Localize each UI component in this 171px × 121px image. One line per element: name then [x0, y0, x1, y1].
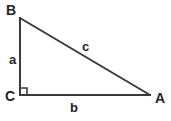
triangle-graphic	[0, 0, 171, 121]
vertex-label-b: B	[6, 3, 16, 17]
side-label-a: a	[9, 53, 16, 66]
side-c-line	[20, 18, 150, 95]
triangle-diagram: B C A a b c	[0, 0, 171, 121]
side-label-b: b	[70, 101, 78, 114]
right-angle-marker-icon	[20, 88, 27, 95]
side-label-c: c	[82, 40, 89, 53]
vertex-label-c: C	[5, 89, 15, 103]
vertex-label-a: A	[155, 91, 165, 105]
